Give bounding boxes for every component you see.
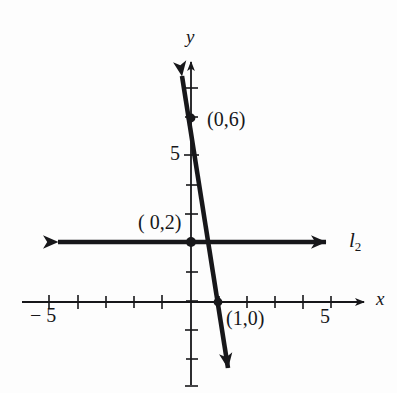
graph-canvas (0, 0, 397, 393)
coordinate-plane-figure: y x (0,6) ( 0,2) (1,0) 5 5 − 5 l2 (0, 0, 397, 393)
point-marker-0-6 (187, 114, 196, 123)
line-label-l2: l2 (349, 228, 361, 255)
point-label-1-0: (1,0) (226, 307, 264, 330)
x-axis-label: x (376, 288, 384, 310)
line-label-l2-subscript: 2 (355, 239, 362, 254)
point-marker-1-0 (214, 298, 223, 307)
x-axis-tick-label-minus-5: − 5 (30, 304, 56, 327)
x-axis (22, 295, 364, 309)
point-marker-0-2 (186, 237, 196, 247)
y-axis-tick-label-5: 5 (170, 142, 180, 165)
x-axis-tick-label-5: 5 (320, 305, 330, 328)
y-axis-label: y (186, 26, 194, 48)
point-label-0-6: (0,6) (207, 108, 245, 131)
point-label-0-2: ( 0,2) (138, 211, 181, 234)
